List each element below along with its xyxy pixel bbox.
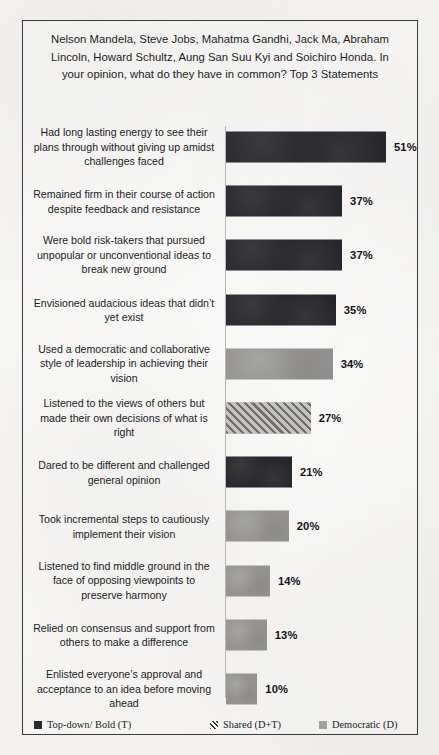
cropped-header-text: ㅤ — [362, 0, 436, 9]
bar-row: Listened to find middle ground in the fa… — [24, 554, 416, 608]
bar-category-label: Were bold risk-takers that pursued unpop… — [31, 234, 217, 277]
legend-swatch-democratic-icon — [319, 721, 327, 729]
legend-swatch-topdown-icon — [34, 721, 42, 729]
legend-swatch-shared-icon — [210, 721, 218, 729]
bar-category-label: Listened to the views of others but made… — [31, 396, 217, 439]
legend-label: Top-down/ Bold (T) — [47, 719, 131, 730]
bar-category-label: Had long lasting energy to see their pla… — [31, 125, 217, 168]
bar-value-label: 20% — [297, 520, 320, 532]
bar-value-label: 34% — [341, 358, 364, 370]
bar-topdown — [226, 240, 342, 271]
bar-democratic — [226, 511, 289, 542]
bar-category-label: Dared to be different and challenged gen… — [31, 458, 217, 487]
chart-legend: Top-down/ Bold (T)Shared (D+T)Democratic… — [24, 719, 418, 735]
bar-democratic — [226, 619, 267, 650]
bar-row: Listened to the views of others but made… — [24, 391, 416, 445]
plot-area: Had long lasting energy to see their pla… — [24, 112, 416, 712]
chart-title: Nelson Mandela, Steve Jobs, Mahatma Gand… — [40, 31, 400, 84]
bar-value-label: 35% — [344, 304, 367, 316]
legend-label: Shared (D+T) — [223, 719, 281, 730]
bar-row: Were bold risk-takers that pursued unpop… — [24, 228, 416, 282]
legend-item-shared: Shared (D+T) — [210, 719, 281, 730]
legend-item-topdown: Top-down/ Bold (T) — [34, 719, 131, 730]
bar-topdown — [226, 294, 336, 325]
bar-category-label: Enlisted everyone’s approval and accepta… — [31, 667, 217, 710]
bar-row: Enlisted everyone’s approval and accepta… — [24, 662, 416, 716]
legend-item-democratic: Democratic (D) — [319, 719, 397, 730]
bar-topdown — [226, 457, 292, 488]
bar-topdown — [226, 132, 386, 163]
bar-value-label: 14% — [278, 575, 301, 587]
bar-democratic — [226, 565, 270, 596]
bar-category-label: Envisioned audacious ideas that didn’t y… — [31, 295, 217, 324]
bar-value-label: 10% — [265, 683, 288, 695]
bar-category-label: Took incremental steps to cautiously imp… — [31, 512, 217, 541]
scanned-chart-page: ㅤ Nelson Mandela, Steve Jobs, Mahatma Ga… — [0, 0, 439, 755]
bar-row: Had long lasting energy to see their pla… — [24, 120, 416, 174]
bar-row: Used a democratic and collaborative styl… — [24, 337, 416, 391]
bar-democratic — [226, 674, 257, 705]
bar-topdown — [226, 186, 342, 217]
bar-shared — [226, 403, 311, 434]
bar-category-label: Remained firm in their course of action … — [31, 187, 217, 216]
bar-row: Relied on consensus and support from oth… — [24, 608, 416, 662]
bar-value-label: 51% — [394, 141, 417, 153]
bar-value-label: 37% — [350, 249, 373, 261]
bar-category-label: Used a democratic and collaborative styl… — [31, 342, 217, 385]
bar-category-label: Relied on consensus and support from oth… — [31, 620, 217, 649]
bar-value-label: 21% — [300, 466, 323, 478]
legend-label: Democratic (D) — [332, 719, 397, 730]
bar-row: Envisioned audacious ideas that didn’t y… — [24, 283, 416, 337]
bar-value-label: 37% — [350, 195, 373, 207]
bar-row: Took incremental steps to cautiously imp… — [24, 499, 416, 553]
bar-value-label: 13% — [275, 629, 298, 641]
bar-row: Dared to be different and challenged gen… — [24, 445, 416, 499]
bar-row: Remained firm in their course of action … — [24, 174, 416, 228]
bar-category-label: Listened to find middle ground in the fa… — [31, 559, 217, 602]
bar-value-label: 27% — [319, 412, 342, 424]
bar-democratic — [226, 348, 333, 379]
